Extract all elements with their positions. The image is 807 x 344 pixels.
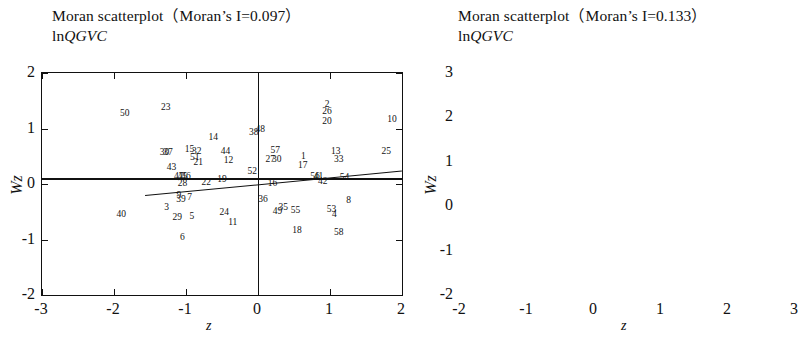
scatter-point-label: 40 bbox=[116, 210, 126, 220]
x-tick-left bbox=[402, 289, 403, 295]
panel-left-variable-name: QGVC bbox=[64, 27, 107, 44]
scatter-point-label: 39 bbox=[176, 195, 186, 205]
x-tick-label: 2 bbox=[397, 300, 405, 318]
scatter-point-label: 25 bbox=[381, 147, 391, 157]
y-tick-label: -1 bbox=[3, 230, 35, 248]
y-tick-left bbox=[42, 295, 48, 296]
x-tick-label: -2 bbox=[452, 300, 465, 318]
y-tick-label: -2 bbox=[3, 285, 35, 303]
scatter-point-label: 20 bbox=[322, 117, 332, 127]
scatter-point-label: 7 bbox=[187, 193, 192, 203]
scatter-point-label: 36 bbox=[258, 195, 268, 205]
plot-area-left: 5023226201014384815324430375713332551211… bbox=[41, 72, 403, 296]
x-tick-top-left bbox=[186, 73, 187, 79]
panel-right-ln-prefix: ln bbox=[458, 27, 470, 44]
y-tick-left bbox=[42, 73, 48, 74]
scatter-point-label: 22 bbox=[201, 178, 211, 188]
y-tick-right-left bbox=[396, 184, 402, 185]
x-tick-label: -2 bbox=[106, 300, 119, 318]
panel-right-variable-label: lnQGVC bbox=[458, 26, 707, 46]
scatter-point-label: 21 bbox=[193, 158, 203, 168]
scatter-point-label: 5 bbox=[189, 213, 194, 223]
scatter-point-label: 49 bbox=[273, 207, 283, 217]
scatter-point-label: 37 bbox=[163, 149, 173, 159]
scatter-point-label: 18 bbox=[292, 226, 302, 236]
y-tick-label: 2 bbox=[421, 107, 453, 125]
scatter-point-label: 50 bbox=[120, 109, 130, 119]
y-tick-left bbox=[42, 240, 48, 241]
panel-left-title: Moran scatterplot（Moran’s I=0.097） bbox=[52, 6, 301, 26]
y-tick-label: 1 bbox=[421, 152, 453, 170]
y-tick-label: 1 bbox=[3, 119, 35, 137]
x-tick-top-left bbox=[402, 73, 403, 79]
scatter-point-label: 29 bbox=[173, 214, 183, 224]
y-tick-label: -1 bbox=[421, 241, 453, 259]
x-tick-label: -1 bbox=[519, 300, 532, 318]
scatter-point-label: 4 bbox=[332, 210, 337, 220]
panel-right-title: Moran scatterplot（Moran’s I=0.133） bbox=[458, 6, 707, 26]
scatter-point-label: 11 bbox=[228, 218, 237, 228]
scatter-point-label: 23 bbox=[161, 103, 171, 113]
x-tick-top-left bbox=[114, 73, 115, 79]
panel-left-variable-label: lnQGVC bbox=[52, 26, 301, 46]
scatter-point-label: 16 bbox=[268, 179, 278, 189]
scatter-point-label: 10 bbox=[387, 115, 397, 125]
scatter-point-label: 3 bbox=[164, 204, 169, 214]
scatter-point-label: 55 bbox=[291, 206, 301, 216]
scatter-point-label: 48 bbox=[255, 125, 265, 135]
x-tick-label: -3 bbox=[34, 300, 47, 318]
y-tick-right-left bbox=[396, 129, 402, 130]
panel-right-variable-name: QGVC bbox=[470, 27, 513, 44]
moran-scatterplot-panel-right: Moran scatterplot（Moran’s I=0.133） lnQGV… bbox=[418, 0, 807, 344]
scatter-point-label: 19 bbox=[217, 175, 227, 185]
moran-scatterplot-panel-left: Moran scatterplot（Moran’s I=0.097） lnQGV… bbox=[0, 0, 410, 344]
scatter-point-label: 42 bbox=[318, 177, 328, 187]
x-tick-label: -1 bbox=[178, 300, 191, 318]
y-tick-right-left bbox=[396, 240, 402, 241]
scatter-point-label: 12 bbox=[224, 156, 234, 166]
scatter-point-label: 8 bbox=[346, 196, 351, 206]
scatter-point-label: 17 bbox=[298, 161, 308, 171]
y-tick-label: 0 bbox=[3, 174, 35, 192]
x-axis-label-right: z bbox=[621, 318, 626, 334]
y-tick-left bbox=[42, 184, 48, 185]
x-tick-left bbox=[330, 289, 331, 295]
y-tick-left bbox=[42, 129, 48, 130]
scatter-point-label: 52 bbox=[247, 167, 257, 177]
x-tick-label: 1 bbox=[656, 300, 664, 318]
x-tick-label: 0 bbox=[253, 300, 261, 318]
x-tick-left bbox=[186, 289, 187, 295]
y-tick-right-left bbox=[396, 295, 402, 296]
scatter-point-label: 14 bbox=[209, 134, 219, 144]
scatter-point-label: 30 bbox=[272, 155, 282, 165]
x-tick-top-left bbox=[330, 73, 331, 79]
scatter-point-label: 54 bbox=[340, 174, 350, 184]
panel-left-title-block: Moran scatterplot（Moran’s I=0.097） lnQGV… bbox=[52, 6, 301, 46]
x-tick-label: 1 bbox=[325, 300, 333, 318]
y-tick-right-left bbox=[396, 73, 402, 74]
y-tick-label: 2 bbox=[3, 63, 35, 81]
panel-left-ln-prefix: ln bbox=[52, 27, 64, 44]
panel-right-title-block: Moran scatterplot（Moran’s I=0.133） lnQGV… bbox=[458, 6, 707, 46]
x-axis-label-left: z bbox=[206, 318, 211, 334]
scatter-point-label: 6 bbox=[180, 234, 185, 244]
x-tick-left bbox=[114, 289, 115, 295]
y-tick-label: -2 bbox=[421, 285, 453, 303]
scatter-point-label: 28 bbox=[178, 179, 188, 189]
y-tick-label: 3 bbox=[421, 63, 453, 81]
y-axis-label-right: Wz bbox=[422, 170, 440, 200]
scatter-point-label: 33 bbox=[334, 155, 344, 165]
x-tick-label: 2 bbox=[723, 300, 731, 318]
scatter-point-label: 58 bbox=[334, 228, 344, 238]
x-tick-label: 3 bbox=[790, 300, 798, 318]
x-tick-label: 0 bbox=[589, 300, 597, 318]
